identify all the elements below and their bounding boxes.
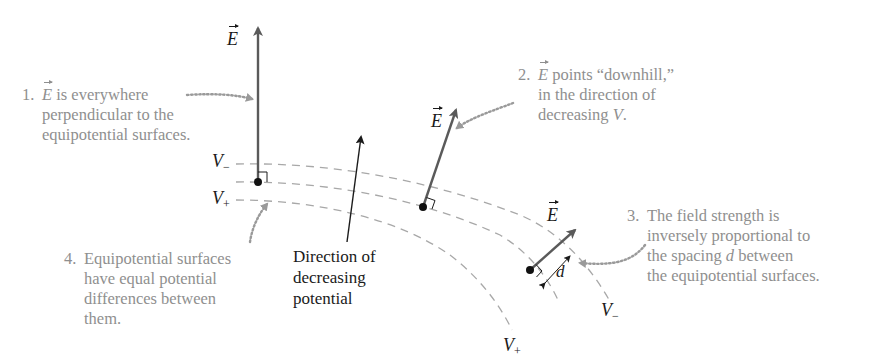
e-vector-inline: E [42, 85, 52, 105]
direction-caption-line: potential [293, 288, 376, 309]
decreasing-potential-arrow [347, 137, 361, 242]
pointer-note-1 [187, 94, 252, 99]
field-arrow-3 [526, 230, 575, 277]
e-label-1: E [227, 29, 238, 50]
pointer-note-2 [457, 103, 513, 128]
v-minus-label-right: V− [601, 300, 619, 324]
v-plus-label-left: V+ [212, 188, 230, 212]
note-number: 3. [627, 206, 639, 226]
pointer-note-3 [580, 245, 645, 264]
equipotential-curve-middle [236, 182, 558, 300]
field-arrow-1 [254, 28, 267, 186]
note-number: 4. [64, 249, 76, 269]
annotation-note-4: 4. Equipotential surfaces have equal pot… [84, 249, 231, 329]
pointer-note-4 [250, 204, 267, 242]
direction-caption-line: Direction of [293, 246, 376, 267]
v-minus-label-left: V− [212, 151, 230, 175]
equipotential-diagram: E E E V− V+ V− V+ d Direction of decreas… [0, 0, 885, 359]
direction-caption-line: decreasing [293, 267, 376, 288]
direction-caption: Direction of decreasing potential [293, 246, 376, 309]
e-vector-inline: E [538, 65, 548, 85]
e-label-2: E [431, 111, 442, 132]
annotation-note-2: 2. E points “downhill,” in the direction… [538, 65, 674, 125]
annotation-note-1: 1. E is everywhere perpendicular to the … [42, 85, 190, 145]
spacing-d-label: d [556, 262, 565, 282]
v-plus-label-right: V+ [503, 335, 521, 359]
e-label-3: E [547, 205, 558, 226]
note-number: 1. [22, 85, 34, 105]
annotation-note-3: 3. The field strength is inversely propo… [647, 206, 820, 286]
note-number: 2. [518, 65, 530, 85]
